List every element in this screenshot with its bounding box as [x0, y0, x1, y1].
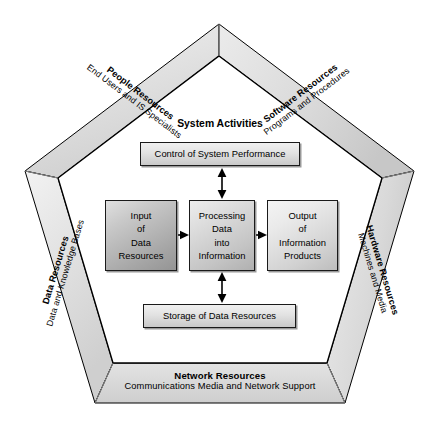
box-input-line-3: Data — [131, 236, 151, 249]
box-output-line-1: Output — [288, 209, 316, 222]
page-title: System Activities — [0, 118, 440, 129]
box-output-line-3: Information — [279, 236, 326, 249]
box-storage-line-1: Storage of Data Resources — [163, 309, 276, 322]
box-input-of-data-resources[interactable]: Input of Data Resources — [105, 200, 177, 271]
box-processing-line-2: Data — [212, 222, 232, 235]
box-processing-line-1: Processing — [199, 209, 245, 222]
box-storage-of-data-resources[interactable]: Storage of Data Resources — [143, 304, 296, 328]
box-control-of-system-performance[interactable]: Control of System Performance — [140, 142, 300, 166]
box-processing-line-3: into — [214, 236, 229, 249]
box-output-line-2: of — [299, 222, 307, 235]
box-output-line-4: Products — [284, 249, 321, 262]
box-control-line-1: Control of System Performance — [155, 147, 286, 160]
box-input-line-1: Input — [131, 209, 152, 222]
box-input-line-4: Resources — [119, 249, 164, 262]
box-processing-line-4: Information — [199, 249, 246, 262]
box-input-line-2: of — [137, 222, 145, 235]
box-processing-data-into-information[interactable]: Processing Data into Information — [189, 200, 255, 271]
band-face-network — [95, 363, 345, 403]
diagram-canvas: People Resources End Users and IS Specia… — [0, 0, 440, 432]
box-output-of-information-products[interactable]: Output of Information Products — [267, 200, 338, 271]
